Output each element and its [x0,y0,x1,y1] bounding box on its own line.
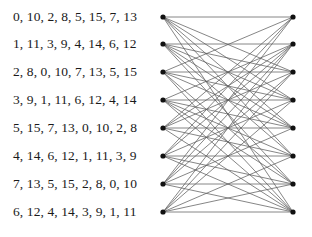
graph-node [160,97,165,102]
graph-edge [163,44,293,72]
graph-node [160,125,165,130]
graph-node [160,181,165,186]
bipartite-graph-canvas [0,0,312,237]
graph-node [290,125,295,130]
graph-edge [163,17,293,100]
graph-node [160,14,165,19]
graph-node [290,69,295,74]
bipartite-graph-figure: 0, 10, 2, 8, 5, 15, 7, 131, 11, 3, 9, 4,… [0,0,312,237]
graph-edge [163,156,293,184]
graph-node [290,181,295,186]
edge-group [163,17,293,212]
graph-node [160,41,165,46]
graph-node [290,41,295,46]
graph-node [160,209,165,214]
graph-edge [163,17,293,184]
graph-node [290,14,295,19]
graph-node [160,69,165,74]
graph-node [290,153,295,158]
graph-node [160,153,165,158]
graph-node [290,97,295,102]
graph-node [290,209,295,214]
